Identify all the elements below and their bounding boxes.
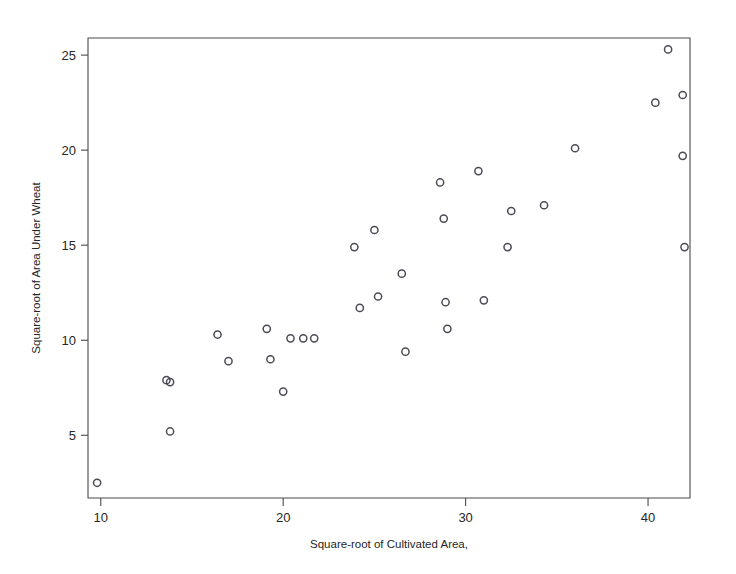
data-point xyxy=(225,358,232,365)
x-axis: 10203040 xyxy=(94,498,656,525)
y-tick-label: 5 xyxy=(69,428,76,443)
data-point xyxy=(436,179,443,186)
data-point xyxy=(679,152,686,159)
data-point xyxy=(681,243,688,250)
plot-frame xyxy=(88,38,690,498)
data-point xyxy=(480,297,487,304)
data-point xyxy=(166,428,173,435)
data-point xyxy=(300,335,307,342)
data-point xyxy=(475,167,482,174)
data-point xyxy=(374,293,381,300)
data-point xyxy=(402,348,409,355)
y-axis: 510152025 xyxy=(62,48,88,443)
data-point xyxy=(665,46,672,53)
data-point xyxy=(287,335,294,342)
y-tick-label: 20 xyxy=(62,143,76,158)
x-tick-label: 20 xyxy=(276,510,290,525)
data-point xyxy=(540,202,547,209)
data-point xyxy=(356,304,363,311)
data-point xyxy=(508,207,515,214)
data-point xyxy=(263,325,270,332)
data-point-group xyxy=(94,46,689,487)
data-point xyxy=(280,388,287,395)
data-point xyxy=(571,145,578,152)
data-point xyxy=(679,91,686,98)
data-point xyxy=(311,335,318,342)
data-point xyxy=(444,325,451,332)
y-axis-title: Square-root of Area Under Wheat xyxy=(30,182,42,354)
x-axis-title: Square-root of Cultivated Area, xyxy=(310,538,468,550)
data-point xyxy=(398,270,405,277)
x-tick-label: 40 xyxy=(641,510,655,525)
scatter-plot-figure: 51015202510203040Square-root of Cultivat… xyxy=(0,0,736,574)
data-point xyxy=(351,243,358,250)
data-point xyxy=(504,243,511,250)
x-tick-label: 10 xyxy=(94,510,108,525)
scatter-plot-canvas: 51015202510203040Square-root of Cultivat… xyxy=(0,0,736,574)
y-tick-label: 25 xyxy=(62,48,76,63)
data-point xyxy=(214,331,221,338)
x-tick-label: 30 xyxy=(458,510,472,525)
data-point xyxy=(267,356,274,363)
y-tick-label: 15 xyxy=(62,238,76,253)
data-point xyxy=(371,226,378,233)
data-point xyxy=(442,299,449,306)
data-point xyxy=(440,215,447,222)
data-point xyxy=(94,479,101,486)
y-tick-label: 10 xyxy=(62,333,76,348)
data-point xyxy=(652,99,659,106)
